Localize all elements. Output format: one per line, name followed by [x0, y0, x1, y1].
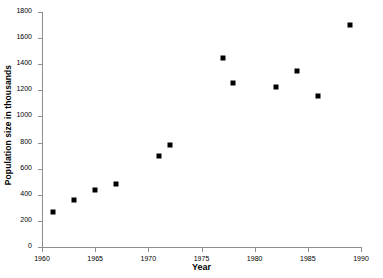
y-axis-tick-label: 400 [20, 190, 32, 197]
y-axis-tick: 200 [38, 221, 43, 222]
y-axis-tick-label: 600 [20, 164, 32, 171]
x-axis-tick [148, 247, 149, 252]
x-axis-tick-label: 1975 [194, 255, 210, 262]
x-axis-tick [361, 247, 362, 252]
data-point [273, 85, 278, 90]
y-axis-tick: 800 [38, 143, 43, 144]
plot-area: 020040060080010001200140016001800 196019… [42, 12, 361, 247]
data-point [156, 153, 161, 158]
data-point [316, 93, 321, 98]
x-axis-tick-label: 1960 [34, 255, 50, 262]
x-axis-tick [255, 247, 256, 252]
data-point [114, 181, 119, 186]
y-axis-title: Population size in thousands [0, 0, 16, 250]
y-axis-tick-label: 1800 [16, 7, 32, 14]
y-axis-tick-label: 1600 [16, 33, 32, 40]
y-axis-tick-label: 200 [20, 216, 32, 223]
data-point [93, 187, 98, 192]
x-axis-tick [202, 247, 203, 252]
data-point [348, 23, 353, 28]
x-axis-tick-label: 1990 [353, 255, 369, 262]
x-axis-title-label: Year [192, 262, 211, 272]
y-axis-tick-label: 0 [28, 242, 32, 249]
data-point [295, 68, 300, 73]
x-axis-tick-label: 1980 [247, 255, 263, 262]
x-axis-tick [308, 247, 309, 252]
x-axis-tick-label: 1965 [87, 255, 103, 262]
y-axis-tick: 1400 [38, 64, 43, 65]
y-axis-tick: 400 [38, 195, 43, 196]
y-axis-title-label: Population size in thousands [3, 65, 13, 185]
scatter-chart: Population size in thousands 02004006008… [0, 0, 383, 278]
y-axis-tick-label: 1000 [16, 111, 32, 118]
x-axis-tick-label: 1985 [300, 255, 316, 262]
y-axis-line [42, 12, 43, 248]
y-axis-tick: 1800 [38, 12, 43, 13]
data-point [71, 198, 76, 203]
y-axis-tick: 1600 [38, 38, 43, 39]
x-axis-title: Year [42, 262, 361, 272]
data-point [231, 80, 236, 85]
x-axis-tick [42, 247, 43, 252]
x-axis-tick-label: 1970 [141, 255, 157, 262]
data-point [167, 143, 172, 148]
data-point [220, 55, 225, 60]
x-axis-tick [95, 247, 96, 252]
data-point [50, 210, 55, 215]
y-axis-tick: 600 [38, 169, 43, 170]
y-axis-tick: 1000 [38, 116, 43, 117]
y-axis-tick-label: 1400 [16, 59, 32, 66]
y-axis-tick-label: 1200 [16, 85, 32, 92]
y-axis-tick-label: 800 [20, 138, 32, 145]
y-axis-tick: 1200 [38, 90, 43, 91]
